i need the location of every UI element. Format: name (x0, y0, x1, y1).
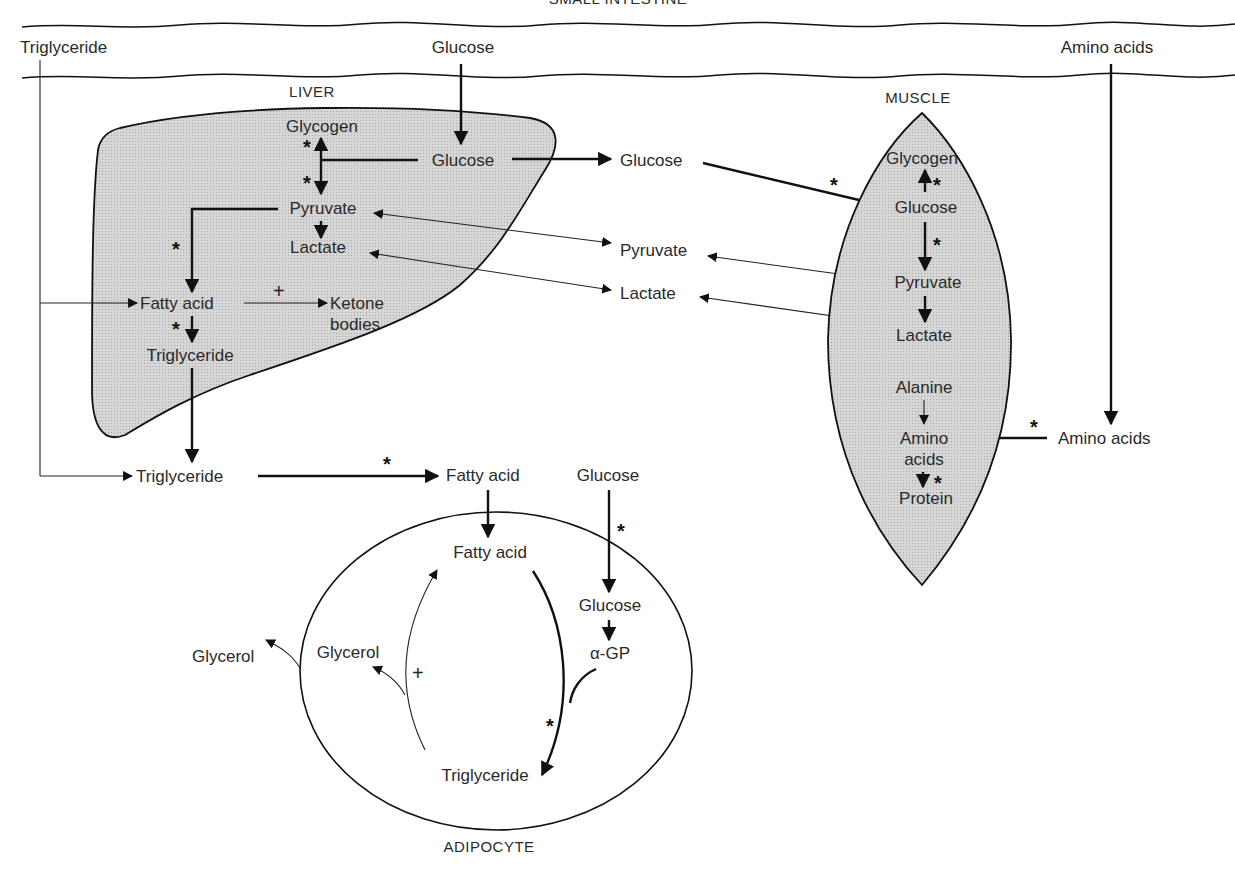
adipocyte-triglyceride: Triglyceride (441, 766, 528, 785)
blood-glucose-adipose: Glucose (577, 466, 639, 485)
arrow-lipolysis-to-fatty-acid (406, 570, 437, 750)
muscle-alanine: Alanine (896, 378, 953, 397)
liver-ketone-line1: Ketone (330, 294, 384, 313)
star-protein-synthesis: * (934, 472, 942, 494)
muscle-amino-line2: acids (904, 450, 944, 469)
star-esterification: * (546, 715, 554, 737)
liver: LIVER Glycogen Glucose Pyruvate Lactate … (92, 64, 556, 462)
blood-amino-acids: Amino acids (1058, 429, 1151, 448)
arrow-glycerol-out (266, 640, 300, 668)
liver-label: LIVER (289, 83, 335, 100)
adipocyte-alpha-gp: α-GP (590, 644, 630, 663)
blood-triglyceride: Triglyceride (136, 467, 223, 486)
plus-lipolysis: + (412, 662, 424, 684)
star-muscle-glycogen: * (933, 174, 941, 196)
muscle-pyruvate: Pyruvate (894, 273, 961, 292)
metabolism-diagram: SMALL INTESTINE Triglyceride Glucose Ami… (0, 0, 1235, 877)
intestine-wall-bottom (22, 73, 1235, 78)
muscle-protein: Protein (899, 489, 953, 508)
intestine-wall-top (22, 22, 1235, 27)
muscle-glycogen: Glycogen (886, 149, 958, 168)
star-triglyceride: * (172, 318, 180, 340)
blood-glycerol: Glycerol (192, 647, 254, 666)
muscle-glucose: Glucose (895, 198, 957, 217)
muscle-amino-line1: Amino (900, 429, 948, 448)
plus-ketone: + (273, 280, 285, 302)
adipocyte-fatty-acid: Fatty acid (453, 543, 527, 562)
star-pyruvate: * (303, 172, 311, 194)
intestine-triglyceride: Triglyceride (20, 38, 107, 57)
star-glycogen: * (303, 136, 311, 158)
muscle-label: MUSCLE (885, 89, 951, 106)
arrow-fatty-acid-to-triglyceride (533, 571, 564, 775)
star-amino-uptake: * (1030, 416, 1038, 438)
muscle-lactate: Lactate (896, 326, 952, 345)
adipocyte-glycerol: Glycerol (317, 643, 379, 662)
star-lipoprotein-lipase: * (383, 453, 391, 475)
liver-pyruvate: Pyruvate (289, 199, 356, 218)
muscle-shape (828, 113, 1011, 585)
small-intestine: SMALL INTESTINE Triglyceride Glucose Ami… (20, 0, 1235, 78)
blood-glucose: Glucose (620, 151, 682, 170)
liver-glucose: Glucose (432, 151, 494, 170)
adipocyte: ADIPOCYTE Fatty acid Glucose α-GP Glycer… (266, 490, 692, 855)
small-intestine-label: SMALL INTESTINE (549, 0, 688, 7)
adipocyte-label: ADIPOCYTE (443, 838, 534, 855)
star-adipocyte-glucose-uptake: * (617, 520, 625, 542)
liver-glycogen: Glycogen (286, 117, 358, 136)
blood-lactate: Lactate (620, 284, 676, 303)
liver-lactate: Lactate (290, 238, 346, 257)
arrow-blood-glucose-to-muscle (703, 163, 880, 205)
liver-ketone-line2: bodies (330, 315, 380, 334)
star-muscle-glucose-uptake: * (830, 174, 838, 196)
intestine-glucose: Glucose (432, 38, 494, 57)
arrow-lipolysis-to-glycerol (373, 667, 405, 695)
adipocyte-glucose: Glucose (579, 596, 641, 615)
blood-fatty-acid: Fatty acid (446, 466, 520, 485)
star-fatty-acid: * (172, 238, 180, 260)
liver-triglyceride: Triglyceride (146, 346, 233, 365)
arrow-alpha-gp-join (570, 669, 596, 703)
liver-fatty-acid: Fatty acid (140, 294, 214, 313)
blood-pyruvate: Pyruvate (620, 241, 687, 260)
muscle: MUSCLE Glycogen Glucose Pyruvate Lactate… (828, 89, 1011, 585)
intestine-amino-acids: Amino acids (1061, 38, 1154, 57)
star-muscle-glycolysis: * (933, 234, 941, 256)
